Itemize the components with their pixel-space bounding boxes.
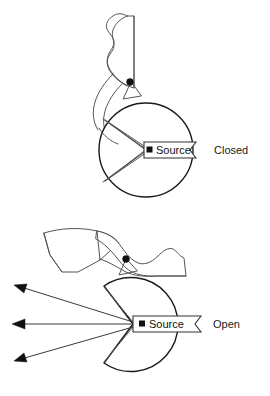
square-marker-icon-open bbox=[139, 321, 145, 327]
pivot-dot-open bbox=[123, 256, 130, 263]
panel-caption-closed: Closed bbox=[214, 144, 248, 156]
beam-arrow-middle bbox=[12, 319, 133, 329]
panel-open: Source Open bbox=[12, 229, 240, 372]
shutter-blade-open bbox=[44, 229, 186, 277]
source-label-closed: Source bbox=[156, 144, 191, 156]
source-label-open: Source bbox=[149, 318, 184, 330]
square-marker-icon-closed bbox=[147, 147, 153, 153]
shutter-mechanism-figure: Source Closed bbox=[0, 0, 270, 396]
panel-closed: Source Closed bbox=[93, 14, 248, 197]
pivot-dot-closed bbox=[127, 79, 134, 86]
panel-caption-open: Open bbox=[213, 318, 240, 330]
